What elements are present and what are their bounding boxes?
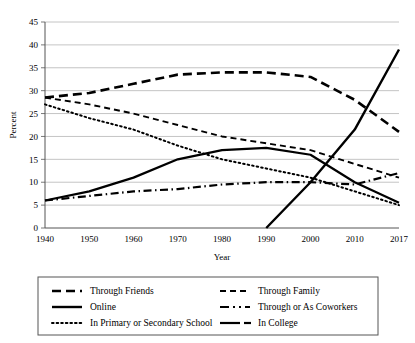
y-tick-label: 15 [29, 155, 39, 165]
legend-item-label: In Primary or Secondary School [90, 318, 213, 328]
x-tick-label: 1970 [169, 234, 188, 244]
x-axis-label: Year [214, 252, 231, 262]
line-chart: 051015202530354045 194019501960197019801… [0, 0, 415, 343]
legend-item-label: Through or As Coworkers [258, 302, 358, 312]
legend-item-label: In College [258, 318, 298, 328]
y-tick-label: 20 [29, 132, 39, 142]
legend-item-label: Through Family [258, 286, 320, 296]
y-tick-label: 25 [29, 109, 39, 119]
legend-item-label: Through Friends [90, 286, 154, 296]
x-tick-label: 1940 [36, 234, 55, 244]
chart-canvas: 051015202530354045 194019501960197019801… [0, 0, 415, 343]
y-tick-label: 45 [29, 17, 39, 27]
x-tick-label: 1980 [213, 234, 232, 244]
x-tick-label: 2017 [390, 234, 409, 244]
y-tick-label: 0 [34, 223, 39, 233]
x-tick-label: 1950 [80, 234, 99, 244]
x-tick-label: 2000 [302, 234, 321, 244]
legend-item-label: Online [90, 302, 116, 312]
y-tick-label: 10 [29, 177, 39, 187]
y-tick-label: 30 [29, 86, 39, 96]
x-tick-label: 1960 [125, 234, 144, 244]
chart-container: 051015202530354045 194019501960197019801… [0, 0, 415, 343]
x-axis-ticks: 194019501960197019801990200020102017 [36, 234, 409, 244]
y-tick-label: 40 [29, 40, 39, 50]
x-tick-label: 2010 [346, 234, 365, 244]
y-tick-label: 35 [29, 63, 39, 73]
y-axis-label: Percent [8, 111, 18, 138]
y-tick-label: 5 [34, 200, 39, 210]
x-tick-label: 1990 [257, 234, 276, 244]
chart-background [0, 0, 415, 343]
